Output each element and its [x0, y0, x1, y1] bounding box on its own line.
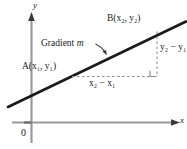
y-axis-arrowhead	[28, 12, 35, 21]
x-axis-label: x	[180, 116, 184, 125]
gradient-symbol: m	[77, 38, 84, 48]
delta-x-label: x₂ − x₁	[89, 79, 115, 89]
origin-label: 0	[21, 128, 26, 138]
y-axis-label: y	[33, 1, 37, 10]
gradient-label-text: Gradient	[41, 38, 77, 48]
gradient-label: Gradient m	[41, 39, 84, 49]
x-axis-arrowhead	[171, 119, 180, 126]
point-a-label: A(x₁, y₁)	[22, 62, 56, 72]
gradient-diagram: y x 0 A(x₁, y₁) B(x₂, y₂) Gradient m x₂ …	[0, 0, 187, 149]
right-angle-marker	[150, 71, 157, 77]
diagram-canvas	[0, 0, 187, 149]
gradient-callout-arrowhead	[102, 50, 106, 55]
delta-y-label: y₂ − y₁	[160, 43, 186, 53]
point-b-label: B(x₂, y₂)	[107, 14, 141, 24]
